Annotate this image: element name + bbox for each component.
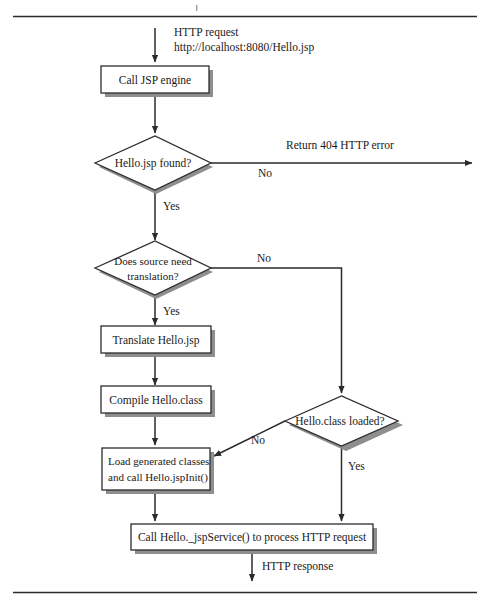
- node-load-generated-classes[interactable]: Load generated classes and call Hello.js…: [102, 448, 214, 494]
- edge-label-loaded-no: No: [251, 434, 265, 446]
- node-does-source-need-translation[interactable]: Does source need translation?: [95, 241, 213, 299]
- edge-label-http-request-line1: HTTP request: [174, 26, 239, 39]
- does-source-need-translation-label-line2: translation?: [127, 270, 178, 282]
- node-compile-hello-class[interactable]: Compile Hello.class: [101, 386, 215, 417]
- hello-class-loaded-label: Hello.class loaded?: [295, 415, 384, 427]
- does-source-need-translation-label-line1: Does source need: [114, 255, 192, 267]
- translate-hello-jsp-label: Translate Hello.jsp: [112, 334, 199, 347]
- hello-jsp-found-label: Hello.jsp found?: [115, 157, 192, 170]
- page-tick-mark: [196, 5, 197, 11]
- flowchart-diagram: Call JSP engine Hello.jsp found? Does so…: [0, 0, 490, 610]
- edge-label-http-request-line2: http://localhost:8080/Hello.jsp: [174, 41, 314, 54]
- edge-label-return-404: Return 404 HTTP error: [286, 139, 394, 151]
- edge-loaded-no: [214, 421, 285, 456]
- call-jsp-service-label: Call Hello._jspService() to process HTTP…: [138, 531, 367, 544]
- node-hello-jsp-found[interactable]: Hello.jsp found?: [95, 136, 213, 194]
- edge-translation-no: [211, 268, 342, 393]
- edge-label-loaded-yes: Yes: [348, 460, 365, 472]
- node-call-jsp-engine[interactable]: Call JSP engine: [101, 66, 213, 97]
- edge-label-http-response: HTTP response: [262, 560, 333, 573]
- edge-label-found-yes: Yes: [163, 200, 180, 212]
- call-jsp-engine-label: Call JSP engine: [119, 74, 191, 87]
- load-generated-classes-label-line2: and call Hello.jspInit(): [108, 471, 208, 484]
- node-call-jsp-service[interactable]: Call Hello._jspService() to process HTTP…: [131, 524, 377, 554]
- load-generated-classes-label-line1: Load generated classes: [108, 455, 209, 467]
- node-hello-class-loaded[interactable]: Hello.class loaded?: [285, 396, 403, 451]
- figure-canvas: Call JSP engine Hello.jsp found? Does so…: [0, 0, 490, 610]
- edge-label-translation-no: No: [257, 252, 271, 264]
- compile-hello-class-label: Compile Hello.class: [109, 394, 203, 407]
- does-source-need-translation-diamond: [95, 241, 211, 295]
- edge-label-found-no: No: [258, 167, 272, 179]
- edge-label-translation-yes: Yes: [163, 305, 180, 317]
- node-translate-hello-jsp[interactable]: Translate Hello.jsp: [101, 326, 215, 357]
